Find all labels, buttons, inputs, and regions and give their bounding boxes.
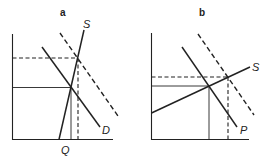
panel-b-demand-curve <box>182 47 237 127</box>
supply-demand-diagram: a S D Q b S P <box>0 0 267 158</box>
panel-b-label: b <box>199 7 205 18</box>
panel-a-quantity-label: Q <box>61 144 70 156</box>
panel-a-supply-label: S <box>83 18 91 30</box>
panel-b-demand-label: P <box>240 124 248 136</box>
panel-b-shifted-demand-curve <box>198 34 254 115</box>
panel-a-shifted-demand-curve <box>60 33 118 116</box>
panel-a-label: a <box>60 7 66 18</box>
panel-a-supply-curve <box>59 30 84 140</box>
panel-a: a S D Q <box>13 7 119 156</box>
panel-b: b S P <box>152 7 261 140</box>
panel-b-supply-label: S <box>252 61 260 73</box>
panel-a-demand-label: D <box>102 124 110 136</box>
